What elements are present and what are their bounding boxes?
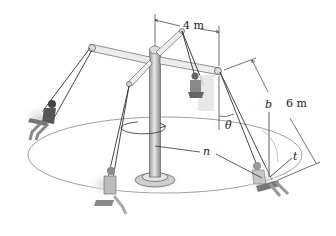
label-normal-axis: n	[203, 146, 210, 157]
swing-ride-diagram	[0, 0, 336, 236]
label-arm-length: 4 m	[183, 20, 204, 31]
label-rope-length: 6 m	[286, 98, 307, 109]
label-theta: θ	[225, 120, 232, 131]
swing-arc	[262, 130, 278, 162]
tangent-axis	[270, 158, 292, 177]
label-tangent-axis: t	[293, 151, 297, 162]
theta-arc	[219, 114, 234, 117]
central-pole	[150, 50, 161, 177]
label-binormal-axis: b	[265, 99, 272, 110]
